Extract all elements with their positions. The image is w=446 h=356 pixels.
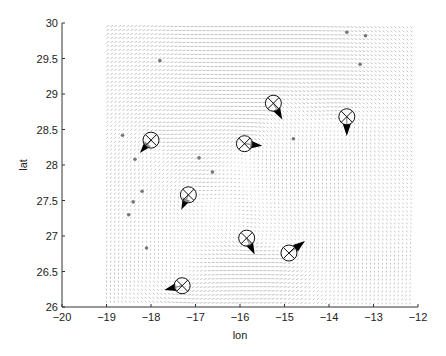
station-dot xyxy=(145,246,149,250)
y-ticks: 2626.52727.52828.52929.530 xyxy=(37,17,65,313)
drifter-marker xyxy=(339,109,355,136)
x-tick-label: −15 xyxy=(275,311,294,323)
x-tick-label: −17 xyxy=(186,311,205,323)
station-dot xyxy=(131,200,135,204)
drifter-marker xyxy=(281,241,305,261)
drifter-marker xyxy=(236,136,262,152)
y-tick-label: 26 xyxy=(46,301,58,313)
station-dot xyxy=(140,189,144,193)
station-dot xyxy=(121,133,125,137)
y-axis-label: lat xyxy=(17,159,29,171)
x-tick-label: −19 xyxy=(97,311,116,323)
x-tick-label: −12 xyxy=(409,311,428,323)
axes: −20−19−18−17−16−15−14−13−12 2626.52727.5… xyxy=(17,17,427,341)
x-tick-label: −13 xyxy=(364,311,383,323)
drifter-marker xyxy=(265,95,282,119)
x-tick-label: −18 xyxy=(142,311,161,323)
drifter-markers xyxy=(140,95,355,293)
arrow-head-icon xyxy=(343,124,351,136)
vector-field xyxy=(106,25,412,304)
y-tick-label: 30 xyxy=(46,17,58,29)
y-tick-label: 29 xyxy=(46,88,58,100)
y-tick-label: 29.5 xyxy=(37,53,58,65)
drifter-marker xyxy=(239,230,255,254)
y-tick-label: 27.5 xyxy=(37,195,58,207)
drifter-marker xyxy=(164,278,190,294)
station-dot xyxy=(345,30,349,34)
station-dot xyxy=(158,59,162,63)
x-tick-label: −14 xyxy=(320,311,339,323)
x-tick-label: −16 xyxy=(231,311,250,323)
station-dot xyxy=(358,62,362,66)
y-tick-label: 28 xyxy=(46,159,58,171)
y-tick-label: 27 xyxy=(46,230,58,242)
x-axis-label: lon xyxy=(233,329,248,341)
y-tick-label: 28.5 xyxy=(37,124,58,136)
station-dot xyxy=(211,170,215,174)
quiver-arrows xyxy=(106,25,412,304)
y-tick-label: 26.5 xyxy=(37,266,58,278)
station-dot xyxy=(133,158,137,162)
station-dot xyxy=(292,137,296,141)
station-dot xyxy=(127,213,131,217)
station-dot xyxy=(197,156,201,160)
station-dot xyxy=(364,34,368,38)
quiver-chart: −20−19−18−17−16−15−14−13−12 2626.52727.5… xyxy=(0,0,446,356)
